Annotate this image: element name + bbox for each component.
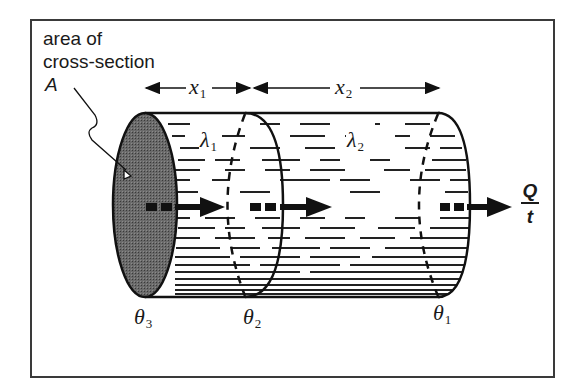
temperature-theta1-label: θ1 [433,302,451,326]
area-label-line1: area of [43,29,102,48]
theta1-symbol: θ [433,300,444,325]
lambda2-subscript: 2 [358,139,365,154]
x2-symbol: x [335,74,345,99]
heat-flow-rate-label: Q t [521,181,539,226]
flow-denominator: t [527,206,533,227]
theta1-subscript: 1 [445,312,452,327]
length-x2-label: x2 [335,76,352,100]
temperature-theta3-label: θ3 [134,306,152,330]
lambda2-symbol: λ [347,127,357,152]
area-label-line2: cross-section [43,52,155,71]
x2-subscript: 2 [346,86,353,101]
theta2-symbol: θ [243,304,254,329]
x1-subscript: 1 [200,86,207,101]
theta3-symbol: θ [134,304,145,329]
theta3-subscript: 3 [146,316,153,331]
flow-numerator: Q [523,180,538,201]
lambda1-symbol: λ [200,127,210,152]
conductivity-lambda2-label: λ2 [346,129,365,153]
diagram-canvas: area of cross-section A x1 x2 λ1 λ2 θ3 θ… [0,0,580,390]
theta2-subscript: 2 [255,316,262,331]
x1-symbol: x [189,74,199,99]
length-x1-label: x1 [189,76,206,100]
temperature-theta2-label: θ2 [243,306,261,330]
lambda1-subscript: 1 [211,139,218,154]
fraction-bar [521,202,539,204]
area-symbol-label: A [45,75,58,94]
conductivity-lambda1-label: λ1 [199,129,218,153]
